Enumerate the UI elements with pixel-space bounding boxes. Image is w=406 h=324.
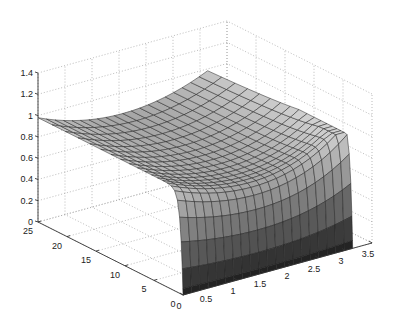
svg-text:0.8: 0.8 — [20, 132, 33, 142]
svg-text:2.5: 2.5 — [308, 264, 321, 274]
svg-text:1.4: 1.4 — [20, 68, 33, 78]
svg-text:5: 5 — [141, 284, 146, 294]
surface-plot: 00.511.522.533.5051015202500.20.40.60.81… — [0, 0, 406, 324]
svg-text:3: 3 — [338, 256, 343, 266]
svg-text:0.5: 0.5 — [200, 294, 213, 304]
svg-text:15: 15 — [81, 255, 91, 265]
svg-text:0.4: 0.4 — [20, 174, 33, 184]
svg-text:10: 10 — [110, 270, 120, 280]
svg-text:0: 0 — [176, 301, 181, 311]
svg-text:1: 1 — [28, 111, 33, 121]
svg-text:0: 0 — [170, 299, 175, 309]
svg-text:1.5: 1.5 — [254, 279, 267, 289]
svg-text:0.6: 0.6 — [20, 153, 33, 163]
svg-text:2: 2 — [284, 271, 289, 281]
svg-text:1.2: 1.2 — [20, 89, 33, 99]
svg-text:20: 20 — [52, 241, 62, 251]
svg-text:25: 25 — [23, 226, 33, 236]
svg-text:3.5: 3.5 — [362, 249, 375, 259]
svg-text:1: 1 — [230, 286, 235, 296]
svg-text:0.2: 0.2 — [20, 196, 33, 206]
svg-text:0: 0 — [28, 217, 33, 227]
